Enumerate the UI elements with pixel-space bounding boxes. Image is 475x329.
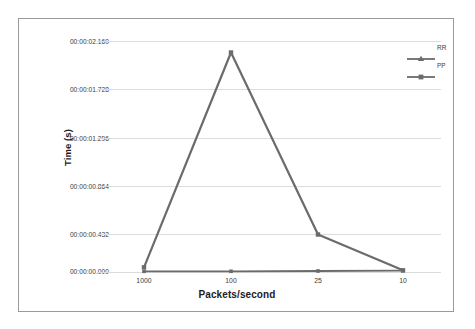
gridlines — [97, 42, 441, 273]
y-axis-title: Time (s) — [62, 88, 73, 208]
legend-marker-square-icon — [407, 67, 435, 85]
x-axis-title: Packets/second — [19, 289, 455, 300]
legend-entry-pp[interactable]: PP — [407, 59, 455, 77]
plot-area — [19, 19, 455, 313]
series-rr — [142, 50, 405, 272]
legend-label-rr: RR — [437, 44, 446, 51]
chart-frame: 00:00:02.160 00:00:01.728 00:00:01.296 0… — [18, 18, 454, 312]
chart-legend: RR PP — [407, 41, 455, 77]
chart-figure: 00:00:02.160 00:00:01.728 00:00:01.296 0… — [0, 0, 475, 329]
legend-label-pp: PP — [437, 62, 446, 69]
legend-entry-rr[interactable]: RR — [407, 41, 455, 59]
